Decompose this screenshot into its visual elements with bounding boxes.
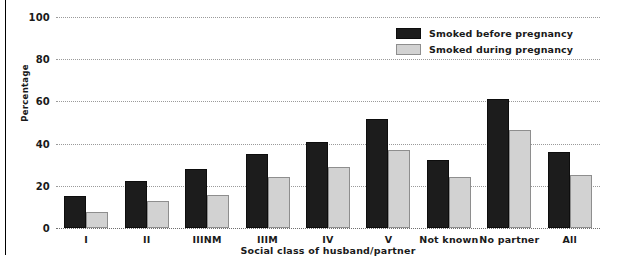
bar (570, 175, 592, 228)
bar (328, 167, 350, 228)
chart-legend: Smoked before pregnancy Smoked during pr… (396, 26, 573, 58)
bar (306, 142, 328, 229)
bar (388, 150, 410, 228)
bar (125, 181, 147, 228)
figure-left-rule (5, 0, 6, 255)
legend-item-smoked-before: Smoked before pregnancy (396, 26, 573, 40)
bar (427, 160, 449, 228)
legend-label-before: Smoked before pregnancy (429, 28, 573, 39)
bar (449, 177, 471, 228)
legend-swatch-icon-during (396, 44, 421, 55)
bar (268, 177, 290, 228)
x-tick-label: All (510, 234, 621, 245)
bar-group (125, 17, 169, 228)
bar (487, 99, 509, 228)
legend-item-smoked-during: Smoked during pregnancy (396, 42, 573, 56)
bar (548, 152, 570, 228)
legend-label-during: Smoked during pregnancy (429, 44, 573, 55)
y-tick-80: 80 (36, 54, 50, 65)
bar (185, 169, 207, 228)
y-tick-100: 100 (29, 12, 50, 23)
bar-group (306, 17, 350, 228)
bar (246, 154, 268, 228)
y-tick-60: 60 (36, 96, 50, 107)
bar (147, 201, 169, 228)
y-tick-0: 0 (43, 223, 50, 234)
x-axis-title: Social class of husband/partner (56, 245, 600, 256)
y-tick-40: 40 (36, 138, 50, 149)
bar (207, 195, 229, 228)
bar (366, 119, 388, 228)
bar-group (64, 17, 108, 228)
y-tick-20: 20 (36, 180, 50, 191)
gridline-0 (56, 228, 600, 229)
bar (86, 212, 108, 228)
bar-group (246, 17, 290, 228)
y-axis-title: Percentage (20, 53, 30, 133)
bar (509, 130, 531, 228)
bar-group (185, 17, 229, 228)
legend-swatch-icon-before (396, 28, 421, 39)
bar (64, 196, 86, 228)
